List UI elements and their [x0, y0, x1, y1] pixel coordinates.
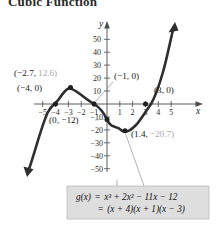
x-tick-label: 5: [169, 108, 173, 117]
formula-line-1-lhs: g(x): [76, 192, 91, 203]
formula-box-background: [67, 186, 209, 219]
formula-line-2-rhs: (x + 4)(x + 1)(x − 3): [107, 204, 185, 215]
x-tick-label: 1: [118, 108, 122, 117]
y-axis-arrow: [104, 21, 110, 29]
y-tick-label: −20: [90, 126, 103, 135]
x-axis-label: x: [195, 106, 201, 116]
leader-line-formula-box: [126, 134, 145, 187]
label-local-maximum-dim: 12.6): [38, 68, 57, 78]
point-x-intercept-middle: [92, 102, 97, 107]
y-tick-label: −10: [90, 113, 103, 122]
point-local-maximum: [68, 85, 73, 90]
y-tick-label: 50: [93, 35, 101, 44]
y-axis-label: y: [98, 19, 104, 29]
formula-line-1-eq: =: [95, 192, 100, 202]
x-tick-label: 2: [131, 108, 135, 117]
axes-group: y x: [34, 19, 203, 172]
label-local-minimum-dim: −20.7): [150, 129, 174, 139]
label-local-maximum: (−2.7,12.6): [14, 68, 57, 78]
curve-arrow-lower-left: [24, 167, 34, 178]
y-tick-label: −30: [90, 139, 103, 148]
formula-box: g(x)=x³ + 2x² − 11x − 12 =(x + 4)(x + 1)…: [67, 186, 209, 219]
y-tick-label: −50: [90, 165, 103, 174]
label-x-intercept-right: (3, 0): [154, 85, 174, 95]
y-tick-label: 40: [93, 48, 101, 57]
label-local-minimum: (1.4,−20.7): [131, 129, 174, 139]
cubic-curve-path: [29, 30, 173, 169]
label-local-minimum-main: (1.4,: [131, 129, 148, 139]
formula-line-1-rhs: x³ + 2x² − 11x − 12: [103, 192, 178, 202]
y-tick-label: −40: [90, 152, 103, 161]
curve-arrow-upper-right: [169, 22, 179, 33]
point-x-intercept-right: [143, 102, 148, 107]
formula-line-2-eq: =: [98, 204, 103, 214]
label-x-intercept-left: (−4, 0): [17, 83, 42, 93]
cubic-function-figure: Cubic Function y x −5 −4: [0, 0, 216, 225]
cubic-function-chart: y x −5 −4 −3 −2 −1 1 2 3 4 5: [0, 0, 216, 225]
y-tick-label: 30: [93, 61, 101, 70]
x-tick-label: 4: [156, 108, 160, 117]
y-tick-label: 10: [93, 87, 101, 96]
formula-line-2: =(x + 4)(x + 1)(x − 3): [98, 204, 185, 215]
point-local-minimum: [123, 128, 128, 133]
label-local-maximum-main: (−2.7,: [14, 68, 36, 78]
y-tick-label: 20: [93, 74, 101, 83]
label-x-intercept-middle: (−1, 0): [114, 71, 139, 81]
point-y-intercept: [105, 117, 110, 122]
point-x-intercept-left: [53, 102, 58, 107]
label-y-intercept: (0, −12): [49, 115, 79, 125]
